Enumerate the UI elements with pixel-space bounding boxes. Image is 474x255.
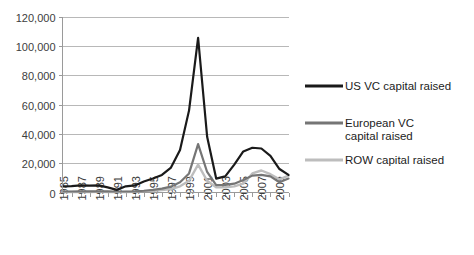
legend-label: ROW capital raised <box>345 154 444 166</box>
legend-label: US VC capital raised <box>345 80 451 92</box>
y-axis-tick-label: 40,000 <box>22 129 56 141</box>
x-axis-tick-label: 1987 <box>76 176 88 200</box>
y-axis-tick-label: 20,000 <box>22 158 56 170</box>
axis-lines <box>63 17 289 194</box>
gridlines <box>59 18 289 194</box>
x-axis-tick-label: 1989 <box>94 176 106 200</box>
series-lines <box>63 38 289 192</box>
y-axis-tick-label: 120,000 <box>16 12 56 24</box>
y-axis-labels: 120,000100,00080,00060,00040,00020,0000 <box>16 12 56 200</box>
y-axis-tick-label: 80,000 <box>22 70 56 82</box>
x-axis-tick-label: 1985 <box>58 176 70 200</box>
chart-legend: US VC capital raisedEuropean VCcapital r… <box>305 80 451 166</box>
chart-container: 120,000100,00080,00060,00040,00020,0000 … <box>0 0 474 255</box>
x-axis-tick-label: 1993 <box>130 176 142 200</box>
line-chart: 120,000100,00080,00060,00040,00020,0000 … <box>0 0 474 255</box>
legend-label: capital raised <box>345 130 413 142</box>
y-axis-tick-label: 100,000 <box>16 41 56 53</box>
y-axis-tick-label: 0 <box>49 188 55 200</box>
x-axis-tick-label: 2007 <box>256 176 268 200</box>
series-line <box>63 38 289 190</box>
legend-label: European VC <box>345 117 414 129</box>
y-axis-tick-label: 60,000 <box>22 100 56 112</box>
